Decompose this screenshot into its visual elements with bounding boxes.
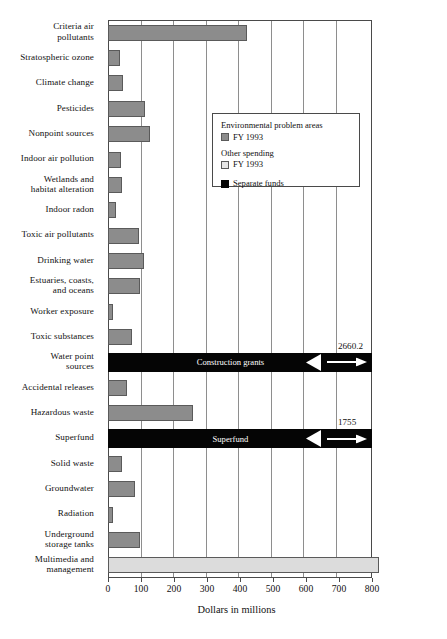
bar-category-label: Criteria airpollutants: [0, 21, 94, 41]
bar-category-label-line: Toxic air pollutants: [0, 229, 94, 239]
bar-category-label-line: Groundwater: [0, 483, 94, 493]
legend-label-other-fy1993: FY 1993: [233, 159, 263, 170]
bar-separate-fund: Superfund: [108, 429, 372, 448]
x-tick: [108, 578, 109, 582]
bar-rows: Criteria airpollutantsStratospheric ozon…: [0, 20, 447, 578]
bar-environmental: [108, 75, 123, 91]
bar-category-label: Stratospheric ozone: [0, 52, 94, 62]
bar-category-label: Radiation: [0, 508, 94, 518]
legend-heading-other-spending: Other spending: [221, 148, 359, 159]
bar-environmental: [108, 101, 145, 117]
legend-swatch-dark-icon: [221, 133, 229, 141]
bar-category-label-line: pollutants: [0, 32, 94, 42]
axis-break-notch-icon: [306, 354, 321, 371]
bar-chart: Criteria airpollutantsStratospheric ozon…: [0, 0, 447, 639]
bar-environmental: [108, 304, 113, 320]
bar-environmental: [108, 228, 139, 244]
bar-separate-fund: Construction grants: [108, 353, 372, 372]
x-tick: [141, 578, 142, 582]
bar-category-label: Accidental releases: [0, 382, 94, 392]
legend-heading-environmental: Environmental problem areas: [221, 120, 359, 131]
bar-environmental: [108, 405, 193, 421]
bar-environmental: [108, 152, 121, 168]
x-axis: 0100200300400500600700800: [108, 578, 372, 579]
bar-category-label-line: Hazardous waste: [0, 407, 94, 417]
x-tick-label: 700: [332, 583, 346, 594]
axis-break-notch-icon: [306, 430, 321, 447]
x-tick-label: 500: [266, 583, 280, 594]
bar-environmental: [108, 253, 144, 269]
bar-category-label-line: storage tanks: [0, 539, 94, 549]
bar-category-label: Undergroundstorage tanks: [0, 529, 94, 549]
bar-category-label-line: Accidental releases: [0, 382, 94, 392]
bar-category-label: Wetlands andhabitat alteration: [0, 174, 94, 194]
bar-category-label: Superfund: [0, 432, 94, 442]
bar-category-label-line: Toxic substances: [0, 331, 94, 341]
x-tick-label: 0: [106, 583, 111, 594]
bar-environmental: [108, 202, 116, 218]
legend-item-separate-funds: Separate funds: [221, 178, 359, 189]
bar-category-label-line: Pesticides: [0, 103, 94, 113]
bar-other-spending: [108, 557, 379, 573]
bar-category-label-line: Drinking water: [0, 255, 94, 265]
bar-category-label: Toxic substances: [0, 331, 94, 341]
legend-label-environmental-fy1993: FY 1993: [233, 132, 263, 143]
bar-environmental: [108, 532, 140, 548]
x-axis-title: Dollars in millions: [0, 604, 447, 615]
bar-category-label: Pesticides: [0, 103, 94, 113]
legend-item-environmental-fy1993: FY 1993: [221, 132, 359, 143]
legend-swatch-light-icon: [221, 161, 229, 169]
bar-value-label: 2660.2: [338, 341, 363, 351]
legend-item-other-fy1993: FY 1993: [221, 159, 359, 170]
x-tick-label: 300: [200, 583, 214, 594]
bar-category-label-line: Radiation: [0, 508, 94, 518]
bar-value-label: 1755: [338, 417, 356, 427]
bar-category-label: Climate change: [0, 77, 94, 87]
bar-category-label: Nonpoint sources: [0, 128, 94, 138]
bar-category-label-line: Superfund: [0, 432, 94, 442]
bar-category-label: Water pointsources: [0, 351, 94, 371]
x-tick: [174, 578, 175, 582]
x-tick: [207, 578, 208, 582]
bar-category-label-line: Multimedia and: [0, 554, 94, 564]
legend-label-separate-funds: Separate funds: [233, 178, 284, 189]
bar-category-label: Groundwater: [0, 483, 94, 493]
bar-category-label-line: habitat alteration: [0, 184, 94, 194]
bar-category-label-line: management: [0, 564, 94, 574]
bar-category-label-line: Solid waste: [0, 458, 94, 468]
bar-environmental: [108, 50, 120, 66]
x-tick: [372, 578, 373, 582]
x-tick-label: 100: [134, 583, 148, 594]
bar-category-label-line: Indoor air pollution: [0, 153, 94, 163]
bar-category-label: Multimedia andmanagement: [0, 554, 94, 574]
x-tick: [240, 578, 241, 582]
value-overflow-arrow-icon: [327, 434, 367, 443]
bar-category-label: Hazardous waste: [0, 407, 94, 417]
x-tick: [306, 578, 307, 582]
x-axis-title-text: Dollars in millions: [198, 604, 276, 615]
x-tick-label: 400: [233, 583, 247, 594]
x-tick-label: 200: [167, 583, 181, 594]
x-tick-label: 600: [299, 583, 313, 594]
bar-category-label: Drinking water: [0, 255, 94, 265]
bar-environmental: [108, 481, 135, 497]
bar-category-label-line: and oceans: [0, 285, 94, 295]
bar-environmental: [108, 126, 150, 142]
bar-category-label: Solid waste: [0, 458, 94, 468]
bar-category-label-line: Estuaries, coasts,: [0, 275, 94, 285]
bar-category-label-line: Indoor radon: [0, 204, 94, 214]
x-tick-label: 800: [365, 583, 379, 594]
bar-category-label: Worker exposure: [0, 306, 94, 316]
bar-category-label-line: Nonpoint sources: [0, 128, 94, 138]
bar-environmental: [108, 507, 113, 523]
bar-category-label-line: Underground: [0, 529, 94, 539]
bar-category-label-line: Climate change: [0, 77, 94, 87]
bar-category-label-line: Water point: [0, 351, 94, 361]
bar-environmental: [108, 329, 132, 345]
bar-category-label: Indoor radon: [0, 204, 94, 214]
value-overflow-arrow-icon: [327, 358, 367, 367]
bar-category-label-line: Criteria air: [0, 21, 94, 31]
bar-category-label: Indoor air pollution: [0, 153, 94, 163]
bar-category-label-line: Wetlands and: [0, 174, 94, 184]
bar-category-label-line: Worker exposure: [0, 306, 94, 316]
